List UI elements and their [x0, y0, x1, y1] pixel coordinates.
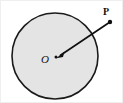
label-center-o: O: [41, 53, 49, 65]
point-p-dot: [108, 20, 112, 24]
figure-canvas: O P: [0, 0, 123, 103]
label-point-p: P: [103, 6, 109, 17]
point-o-dot: [55, 56, 58, 59]
geometry-figure: O P: [0, 0, 123, 103]
